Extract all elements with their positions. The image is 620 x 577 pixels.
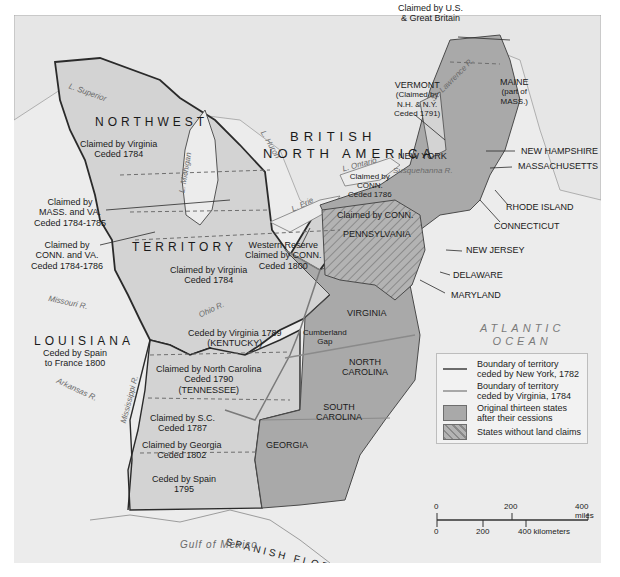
georgia-claim-line1: Claimed by Georgia	[142, 440, 222, 450]
wr-line2: Claimed by CONN.	[245, 250, 322, 260]
label-us-gb: Claimed by U.S.& Great Britain	[398, 3, 463, 24]
legend-ny-line2: ceded by New York, 1782	[477, 369, 579, 379]
scale-km-0: 0	[434, 527, 438, 536]
scale-miles-0: 0	[434, 502, 438, 511]
nc-line1: NORTH	[342, 357, 388, 367]
atlantic-line1: ATLANTIC	[480, 322, 564, 335]
label-spain-1795: Ceded by Spain1795	[152, 474, 216, 495]
label-delaware: DELAWARE	[453, 270, 503, 280]
label-western-reserve: Western ReserveClaimed by CONN.Ceded 180…	[245, 240, 322, 271]
region-label-louisiana: LOUISIANA	[34, 335, 134, 349]
us-gb-line2: & Great Britain	[398, 13, 463, 23]
conn-ny-line1: Claimed by	[348, 172, 392, 181]
wr-line1: Western Reserve	[245, 240, 322, 250]
scale-bar: 0 200 400 miles 0 200 400 kilometers	[412, 497, 602, 537]
label-virginia-ohio: Claimed by VirginiaCeded 1784	[170, 265, 247, 286]
label-georgia: GEORGIA	[266, 440, 308, 450]
label-conn-ny: Claimed byCONN.Ceded 1786	[348, 172, 392, 200]
legend-va-line2: ceded by Virginia, 1784	[477, 391, 571, 401]
legend-item-va-boundary: Boundary of territoryceded by Virginia, …	[443, 381, 571, 401]
nc-line2: CAROLINA	[342, 367, 388, 377]
legend-label-ny: Boundary of territoryceded by New York, …	[477, 359, 579, 379]
original-states-swatch-icon	[443, 405, 467, 421]
british-line1: BRITISH	[290, 130, 376, 145]
scale-miles-400: 400 miles	[575, 502, 602, 520]
kentucky-line1: Ceded by Virginia 1789	[188, 328, 281, 338]
us-gb-line1: Claimed by U.S.	[398, 3, 463, 13]
louisiana-line2: to France 1800	[43, 358, 107, 368]
vermont-line1: VERMONT	[394, 80, 440, 90]
virginia-ohio-line1: Claimed by Virginia	[170, 265, 247, 275]
label-cumberland-gap: CumberlandGap	[303, 328, 347, 346]
label-atlantic: ATLANTICOCEAN	[480, 322, 564, 347]
maine-line1: MAINE	[500, 77, 529, 87]
atlantic-line2: OCEAN	[480, 335, 564, 348]
label-conn-va: Claimed byCONN. and VA.Ceded 1784-1786	[31, 240, 103, 271]
legend-hatch-line1: States without land claims	[477, 427, 581, 437]
legend-symbol-states	[443, 405, 469, 421]
wr-line3: Ceded 1800	[245, 261, 322, 271]
label-susquehanna: Susquehanna R.	[393, 166, 453, 175]
virginia-nw-line2: Ceded 1784	[80, 149, 157, 159]
cumberland-line2: Gap	[303, 337, 347, 346]
legend-item-ny-boundary: Boundary of territoryceded by New York, …	[443, 359, 579, 379]
legend-symbol-va	[443, 390, 469, 392]
virginia-nw-line1: Claimed by Virginia	[80, 139, 157, 149]
mass-va-line1: Claimed by	[34, 197, 106, 207]
label-rhode-island: RHODE ISLAND	[506, 202, 574, 212]
label-sc-claim: Claimed by S.C.Ceded 1787	[150, 413, 215, 434]
sc-claim-line1: Claimed by S.C.	[150, 413, 215, 423]
label-new-york: NEW YORK	[398, 151, 447, 161]
scale-km-200: 200	[476, 527, 489, 536]
label-georgia-claim: Claimed by GeorgiaCeded 1802	[142, 440, 222, 461]
kentucky-line2: (KENTUCKY)	[188, 338, 281, 348]
label-virginia: VIRGINIA	[347, 308, 387, 318]
label-virginia-nw: Claimed by VirginiaCeded 1784	[80, 139, 157, 160]
mass-va-line2: MASS. and VA.	[34, 207, 106, 217]
legend-label-va: Boundary of territoryceded by Virginia, …	[477, 381, 571, 401]
legend-states-line2: after their cessions	[477, 413, 567, 423]
conn-va-line3: Ceded 1784-1786	[31, 261, 103, 271]
label-pennsylvania: PENNSYLVANIA	[343, 229, 411, 239]
label-maryland: MARYLAND	[451, 290, 501, 300]
hatched-swatch-icon	[443, 424, 467, 440]
maine-line3: MASS.)	[500, 97, 529, 106]
maine-line2: (part of	[500, 87, 529, 96]
tennessee-line1: Claimed by North Carolina	[156, 364, 262, 374]
label-massachusetts: MASSACHUSETTS	[518, 161, 598, 171]
label-mass-va: Claimed byMASS. and VA.Ceded 1784-1785	[34, 197, 106, 228]
label-north-carolina: NORTHCAROLINA	[342, 357, 388, 378]
tennessee-line3: (TENNESSEE)	[156, 385, 262, 395]
legend-item-no-claims: States without land claims	[443, 424, 581, 440]
region-label-british: BRITISH	[290, 130, 376, 145]
label-kentucky: Ceded by Virginia 1789(KENTUCKY)	[188, 328, 281, 349]
legend-label-hatch: States without land claims	[477, 427, 581, 437]
label-tennessee: Claimed by North CarolinaCeded 1790(TENN…	[156, 364, 262, 395]
legend-symbol-hatch	[443, 424, 469, 440]
legend-ny-line1: Boundary of territory	[477, 359, 579, 369]
legend-states-line1: Original thirteen states	[477, 403, 567, 413]
label-maine: MAINE(part ofMASS.)	[500, 77, 529, 106]
label-louisiana-claim: Ceded by Spainto France 1800	[43, 348, 107, 369]
virginia-ohio-line2: Ceded 1784	[170, 275, 247, 285]
tennessee-line2: Ceded 1790	[156, 374, 262, 384]
conn-ny-line2: CONN.	[348, 181, 392, 190]
sc-line2: CAROLINA	[316, 412, 362, 422]
region-label-territory: TERRITORY	[132, 241, 237, 255]
conn-va-line1: Claimed by	[31, 240, 103, 250]
georgia-claim-line2: Ceded 1802	[142, 450, 222, 460]
conn-va-line2: CONN. and VA.	[31, 250, 103, 260]
spain-line2: 1795	[152, 484, 216, 494]
cumberland-line1: Cumberland	[303, 328, 347, 337]
spain-line1: Ceded by Spain	[152, 474, 216, 484]
ny-boundary-line-icon	[443, 368, 467, 370]
legend-symbol-ny	[443, 368, 469, 370]
vermont-line4: Ceded 1791)	[394, 109, 440, 118]
legend-va-line1: Boundary of territory	[477, 381, 571, 391]
va-boundary-line-icon	[443, 390, 467, 392]
sc-claim-line2: Ceded 1787	[150, 423, 215, 433]
scale-km-400: 400 kilometers	[518, 527, 570, 536]
label-new-hampshire: NEW HAMPSHIRE	[521, 146, 598, 156]
sc-line1: SOUTH	[316, 402, 362, 412]
conn-ny-line3: Ceded 1786	[348, 190, 392, 199]
